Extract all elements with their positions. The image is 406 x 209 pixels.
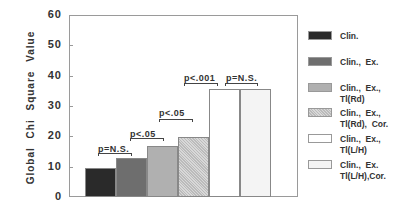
- y-tick-10: 10: [40, 160, 62, 172]
- bracket: [98, 153, 132, 156]
- legend-swatch-clin-ex: [308, 57, 332, 66]
- annotation-p-ns-2: p=N.S.: [226, 73, 257, 83]
- legend-label-tl-rd: Clin., Ex., Tl(Rd): [340, 83, 381, 105]
- bar-clin-ex-tl-lh-cor: [240, 89, 271, 197]
- y-tick-mark: [69, 106, 73, 107]
- y-axis-label: Global Chi Square Value: [25, 23, 36, 193]
- bar-clin-ex-tl-rd-cor: [178, 137, 209, 197]
- y-tick-20: 20: [40, 129, 62, 141]
- y-tick-mark: [69, 76, 73, 77]
- y-tick-mark: [69, 167, 73, 168]
- bar-clin-ex: [116, 158, 147, 197]
- y-tick-30: 30: [40, 99, 62, 111]
- annotation-p-001: p<.001: [184, 73, 215, 83]
- bar-clin-ex-tl-lh: [209, 89, 240, 197]
- y-tick-0: 0: [40, 190, 62, 202]
- y-tick-mark: [69, 136, 73, 137]
- bar-clin-ex-tl-rd: [147, 146, 178, 197]
- legend-swatch-tl-lh-cor: [308, 160, 332, 169]
- y-tick-50: 50: [40, 38, 62, 50]
- legend-label-clin: Clin.: [340, 31, 358, 42]
- legend-swatch-tl-rd-cor: [308, 108, 332, 117]
- y-tick-40: 40: [40, 69, 62, 81]
- legend-label-tl-rd-cor: Clin., Ex., Tl(Rd), Cor.: [340, 108, 388, 130]
- legend-swatch-tl-rd: [308, 83, 332, 92]
- y-tick-60: 60: [40, 8, 62, 20]
- bracket: [159, 119, 193, 122]
- legend-label-tl-lh-cor: Clin., Ex. Tl(L/H),Cor.: [340, 160, 386, 182]
- y-tick-mark: [69, 45, 73, 46]
- annotation-p-05-2: p<.05: [159, 108, 185, 118]
- legend-label-clin-ex: Clin., Ex.: [340, 57, 378, 68]
- legend-label-tl-lh: Clin., Ex., Tl(L/H): [340, 134, 381, 156]
- bar-clin: [85, 168, 116, 197]
- bracket: [130, 138, 164, 141]
- legend-swatch-tl-lh: [308, 134, 332, 143]
- bracket: [225, 83, 258, 86]
- bracket: [184, 83, 218, 86]
- legend-swatch-clin: [308, 31, 332, 40]
